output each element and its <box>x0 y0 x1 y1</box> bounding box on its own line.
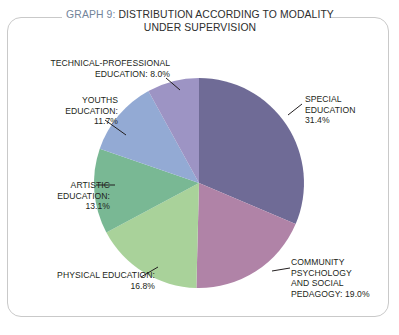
slice-label-special-education: SPECIAL EDUCATION 31.4% <box>305 94 395 126</box>
slice-label-physical-education: PHYSICAL EDUCATION: 16.8% <box>8 270 155 291</box>
slice-label-technical-education: TECHNICAL-PROFESSIONAL EDUCATION: 8.0% <box>8 58 170 79</box>
slice-label-youths-education: YOUTHS EDUCATION: 11.7% <box>8 95 118 127</box>
graph-figure: GRAPH 9: DISTRIBUTION ACCORDING TO MODAL… <box>0 0 399 335</box>
pie-slice-group <box>94 78 304 288</box>
slice-label-artistic-education: ARTISTIC EDUCATION: 13.1% <box>8 180 110 212</box>
leader-line-community <box>272 268 290 271</box>
leader-line-special <box>288 104 302 115</box>
slice-label-community-psychology: COMMUNITY PSYCHOLOGY AND SOCIAL PEDAGOGY… <box>291 257 396 299</box>
